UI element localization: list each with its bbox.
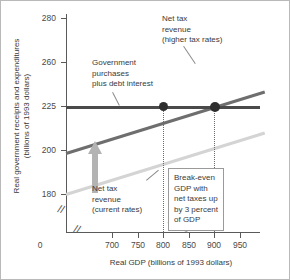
x-tick-800 bbox=[163, 233, 164, 238]
x-tick-label-950: 950 bbox=[220, 240, 260, 250]
x-tick-900 bbox=[214, 233, 215, 238]
y-tick-label-260: 260 bbox=[16, 57, 56, 67]
marker-break-even-900 bbox=[210, 102, 220, 112]
annotation-break-even-callout: Break-even GDP with net taxes up by 3 pe… bbox=[168, 168, 224, 231]
figure-border-left bbox=[0, 0, 1, 280]
y-tick-label-280: 280 bbox=[16, 13, 56, 23]
annotation-net-tax-higher: Net tax revenue (higher tax rates) bbox=[162, 14, 246, 46]
y-tick-200 bbox=[61, 150, 66, 151]
leader-line-net-tax-current bbox=[146, 170, 159, 181]
figure-border-right bbox=[289, 0, 290, 280]
chart-figure: Real government receipts and expenditure… bbox=[0, 0, 290, 280]
marker-break-even-800 bbox=[159, 102, 168, 111]
y-tick-280 bbox=[61, 18, 66, 19]
annotation-net-tax-current: Net tax revenue (current rates) bbox=[92, 184, 166, 216]
y-axis-line bbox=[66, 14, 67, 232]
figure-border-top bbox=[0, 0, 290, 1]
x-tick-850 bbox=[189, 233, 190, 238]
leader-line-net-tax-higher bbox=[183, 46, 196, 64]
x-tick-750 bbox=[138, 233, 139, 238]
x-tick-label-0: 0 bbox=[20, 240, 60, 250]
x-axis-break-mark: // bbox=[72, 223, 81, 235]
x-tick-700 bbox=[112, 233, 113, 238]
annotation-government-purchases: Government purchases plus debt interest bbox=[92, 58, 178, 90]
leader-line-government-purchases bbox=[112, 92, 120, 106]
y-tick-260 bbox=[61, 62, 66, 63]
y-tick-label-200: 200 bbox=[16, 145, 56, 155]
y-tick-label-225: 225 bbox=[16, 101, 56, 111]
y-axis-break-mark: // bbox=[56, 203, 65, 215]
x-tick-950 bbox=[240, 233, 241, 238]
y-tick-label-180: 180 bbox=[16, 189, 56, 199]
x-axis-title: Real GDP (billions of 1993 dollars) bbox=[66, 258, 276, 267]
